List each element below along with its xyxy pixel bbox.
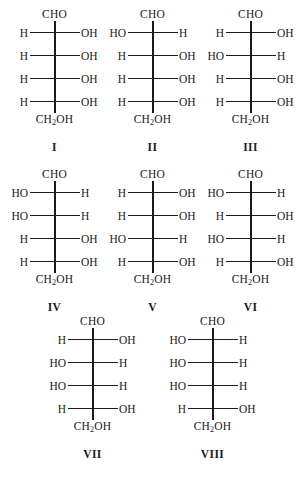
substituent-left: HO	[168, 334, 188, 346]
substituent-left: H	[116, 73, 127, 85]
substituent-left: HO	[108, 233, 128, 245]
stereocenter-1: HOH	[6, 21, 104, 44]
substituent-right: OH	[178, 256, 198, 268]
substituent-right: OH	[118, 403, 138, 415]
substituent-left: H	[56, 334, 67, 346]
substituent-right: OH	[118, 334, 138, 346]
substituent-right: H	[80, 210, 91, 222]
substituent-left: HO	[48, 357, 68, 369]
carbon-backbone: HOHHOHHOHHOH	[6, 181, 104, 273]
stereocenter-2: HOH	[153, 351, 273, 374]
substituent-left: HO	[10, 187, 30, 199]
aldehyde-group: CHO	[79, 315, 106, 328]
stereocenter-3: HOH	[6, 67, 104, 90]
aldehyde-group: CHO	[41, 8, 68, 21]
molecule-ii: CHOHOHHOHHOHHOHCH2OHII	[104, 8, 202, 154]
hydroxymethyl-suffix: OH	[154, 273, 171, 285]
hydroxymethyl-suffix: OH	[94, 420, 111, 432]
molecule-row-2: CHOHOHHOHHOHHOHCH2OHIVCHOHOHHOHHOHHOHCH2…	[0, 168, 305, 314]
stereocenter-2: HOH	[202, 44, 300, 67]
substituent-left: H	[116, 96, 127, 108]
stereocenter-1: HOH	[104, 181, 202, 204]
substituent-right: OH	[276, 73, 296, 85]
substituent-left: H	[56, 403, 67, 415]
stereocenter-2: HOH	[6, 204, 104, 227]
substituent-left: HO	[168, 380, 188, 392]
stereocenter-3: HOH	[104, 67, 202, 90]
carbon-backbone: HOHHOHHOHHOH	[104, 181, 202, 273]
substituent-right: H	[80, 187, 91, 199]
substituent-left: H	[176, 403, 187, 415]
molecule-vii: CHOHOHHOHHOHHOHCH2OHVII	[33, 315, 153, 461]
stereocenter-1: HOH	[153, 328, 273, 351]
substituent-right: H	[178, 27, 189, 39]
substituent-left: H	[18, 50, 29, 62]
substituent-left: H	[214, 73, 225, 85]
molecule-label: III	[243, 140, 258, 154]
hydroxymethyl-prefix: CH	[232, 273, 248, 285]
stereocenter-1: HOH	[202, 181, 300, 204]
aldehyde-group: CHO	[139, 8, 166, 21]
substituent-left: H	[18, 233, 29, 245]
molecule-vi: CHOHOHHOHHOHHOHCH2OHVI	[202, 168, 300, 314]
stereocenter-2: HOH	[104, 204, 202, 227]
molecule-label: VIII	[201, 447, 224, 461]
stereocenter-4: HOH	[33, 397, 153, 420]
substituent-right: OH	[80, 96, 100, 108]
substituent-left: H	[214, 210, 225, 222]
hydroxymethyl-prefix: CH	[36, 113, 52, 125]
substituent-left: HO	[206, 233, 226, 245]
substituent-right: OH	[276, 27, 296, 39]
substituent-right: OH	[178, 73, 198, 85]
substituent-left: H	[116, 50, 127, 62]
molecule-iii: CHOHOHHOHHOHHOHCH2OHIII	[202, 8, 300, 154]
molecule-label: VI	[244, 300, 258, 314]
stereocenter-2: HOH	[6, 44, 104, 67]
substituent-left: H	[116, 256, 127, 268]
substituent-right: OH	[238, 403, 258, 415]
substituent-right: OH	[80, 256, 100, 268]
hydroxymethyl-suffix: OH	[214, 420, 231, 432]
hydroxymethyl-suffix: OH	[252, 273, 269, 285]
hydroxymethyl-group: CH2OH	[73, 420, 113, 436]
substituent-right: H	[178, 233, 189, 245]
hydroxymethyl-group: CH2OH	[193, 420, 233, 436]
substituent-left: HO	[10, 210, 30, 222]
substituent-right: OH	[80, 233, 100, 245]
hydroxymethyl-prefix: CH	[134, 113, 150, 125]
hydroxymethyl-group: CH2OH	[231, 273, 271, 289]
substituent-left: H	[18, 256, 29, 268]
substituent-left: HO	[48, 380, 68, 392]
stereocenter-4: HOH	[104, 90, 202, 113]
molecule-label: VII	[83, 447, 101, 461]
stereocenter-3: HOH	[153, 374, 273, 397]
stereocenter-3: HOH	[202, 67, 300, 90]
hydroxymethyl-group: CH2OH	[35, 113, 75, 129]
substituent-left: HO	[206, 50, 226, 62]
aldehyde-group: CHO	[41, 168, 68, 181]
stereocenter-2: HOH	[104, 44, 202, 67]
substituent-right: OH	[80, 73, 100, 85]
stereocenter-4: HOH	[202, 90, 300, 113]
molecule-label: V	[148, 300, 157, 314]
carbon-backbone: HOHHOHHOHHOH	[202, 181, 300, 273]
stereocenter-3: HOH	[6, 227, 104, 250]
substituent-right: OH	[276, 256, 296, 268]
substituent-right: H	[118, 380, 129, 392]
stereocenter-3: HOH	[104, 227, 202, 250]
substituent-left: H	[214, 256, 225, 268]
substituent-right: OH	[276, 96, 296, 108]
hydroxymethyl-prefix: CH	[74, 420, 90, 432]
substituent-left: H	[18, 96, 29, 108]
molecule-i: CHOHOHHOHHOHHOHCH2OHI	[6, 8, 104, 154]
substituent-right: OH	[178, 50, 198, 62]
hydroxymethyl-group: CH2OH	[133, 273, 173, 289]
hydroxymethyl-group: CH2OH	[35, 273, 75, 289]
aldehyde-group: CHO	[237, 168, 264, 181]
stereocenter-1: HOH	[202, 21, 300, 44]
substituent-left: H	[214, 27, 225, 39]
stereocenter-2: HOH	[33, 351, 153, 374]
substituent-left: H	[116, 187, 127, 199]
substituent-right: OH	[178, 210, 198, 222]
molecule-row-1: CHOHOHHOHHOHHOHCH2OHICHOHOHHOHHOHHOHCH2O…	[0, 8, 305, 154]
